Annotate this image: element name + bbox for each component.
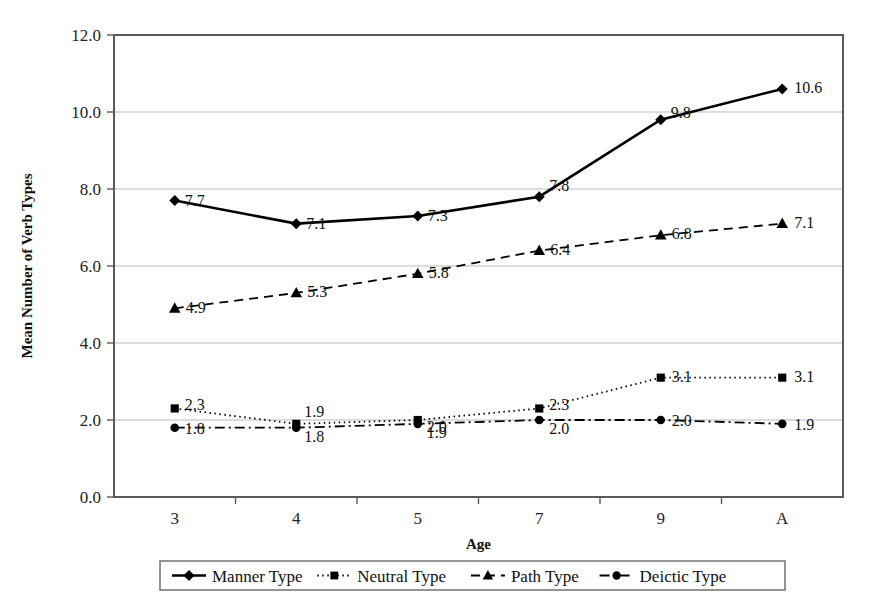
series-marker-2-2 — [412, 268, 424, 278]
data-point-label-2-1: 5.3 — [307, 283, 327, 300]
data-point-label-1-1: 1.9 — [304, 403, 324, 420]
y-tick-label: 2.0 — [80, 411, 101, 430]
series-marker-0-2 — [412, 210, 423, 221]
legend-label-3: Deictic Type — [640, 567, 727, 586]
series-marker-3-3 — [535, 416, 544, 425]
x-tick-label: 3 — [171, 509, 180, 528]
data-point-labels-group: 7.77.17.37.89.810.62.31.92.02.33.13.14.9… — [185, 79, 823, 445]
gridlines-group — [114, 112, 843, 420]
chart-figure: 0.02.04.06.08.010.012.0 34579A Mean Numb… — [0, 0, 877, 613]
data-point-label-3-4: 2.0 — [672, 412, 692, 429]
series-marker-3-5 — [778, 420, 787, 429]
x-axis-tick-labels: 34579A — [171, 509, 790, 528]
data-point-label-3-1: 1.8 — [304, 428, 324, 445]
data-point-label-2-3: 6.4 — [550, 241, 570, 258]
data-point-label-2-2: 5.8 — [429, 264, 449, 281]
series-marker-3-4 — [656, 416, 665, 425]
series-marker-3-0 — [170, 423, 179, 432]
series-marker-0-0 — [169, 195, 180, 206]
y-axis-title: Mean Number of Verb Types — [19, 173, 35, 358]
data-point-label-1-4: 3.1 — [672, 368, 692, 385]
x-axis-title: Age — [466, 536, 491, 552]
legend-marker-3 — [612, 571, 620, 579]
data-point-label-3-5: 1.9 — [794, 416, 814, 433]
data-point-label-0-0: 7.7 — [185, 192, 205, 209]
series-marker-3-2 — [413, 420, 422, 429]
data-point-label-0-4: 9.8 — [671, 104, 691, 121]
data-point-label-0-2: 7.3 — [428, 207, 448, 224]
series-marker-2-5 — [776, 218, 788, 228]
series-marker-1-5 — [778, 374, 786, 382]
data-point-label-2-0: 4.9 — [186, 299, 206, 316]
chart-legend[interactable]: Manner TypeNeutral TypePath TypeDeictic … — [160, 561, 785, 590]
line-chart: 0.02.04.06.08.010.012.0 34579A Mean Numb… — [0, 0, 877, 613]
y-axis-tick-labels: 0.02.04.06.08.010.012.0 — [71, 26, 101, 507]
data-point-label-2-5: 7.1 — [794, 214, 814, 231]
data-point-label-0-3: 7.8 — [549, 177, 569, 194]
data-point-label-3-3: 2.0 — [549, 420, 569, 437]
y-tick-label: 6.0 — [80, 257, 101, 276]
series-marker-0-5 — [777, 83, 788, 94]
series-marker-2-3 — [533, 245, 545, 255]
x-tick-label: 4 — [292, 509, 301, 528]
data-point-label-3-2: 1.9 — [427, 424, 447, 441]
data-point-label-3-0: 1.8 — [185, 420, 205, 437]
y-tick-label: 4.0 — [80, 334, 101, 353]
legend-marker-1 — [330, 572, 338, 580]
series-marker-1-3 — [535, 404, 543, 412]
series-line-0 — [175, 89, 783, 224]
x-tick-label: A — [776, 509, 789, 528]
legend-label-0: Manner Type — [212, 567, 303, 586]
data-point-label-1-0: 2.3 — [185, 396, 205, 413]
legend-label-2: Path Type — [511, 567, 579, 586]
y-tick-label: 12.0 — [71, 26, 101, 45]
data-point-label-2-4: 6.8 — [672, 225, 692, 242]
y-tick-label: 10.0 — [71, 103, 101, 122]
series-marker-0-1 — [291, 218, 302, 229]
data-point-label-1-3: 2.3 — [549, 396, 569, 413]
x-tick-label: 5 — [414, 509, 423, 528]
data-point-label-1-5: 3.1 — [794, 368, 814, 385]
series-marker-1-4 — [657, 374, 665, 382]
data-point-label-0-5: 10.6 — [794, 79, 822, 96]
x-tick-label: 9 — [657, 509, 666, 528]
series-marker-1-0 — [171, 404, 179, 412]
series-marker-3-1 — [292, 423, 301, 432]
y-tick-label: 0.0 — [80, 488, 101, 507]
x-tick-label: 7 — [535, 509, 544, 528]
legend-label-1: Neutral Type — [357, 567, 446, 586]
data-point-label-0-1: 7.1 — [306, 215, 326, 232]
y-tick-label: 8.0 — [80, 180, 101, 199]
data-series-group — [169, 83, 788, 432]
